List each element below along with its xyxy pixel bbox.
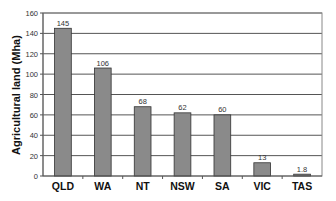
y-tick-label: 120 xyxy=(25,50,38,59)
bar-sa xyxy=(214,115,231,176)
bar-qld xyxy=(55,28,72,176)
x-tick-label: WA xyxy=(94,180,111,192)
y-tick-label: 160 xyxy=(25,9,38,18)
bar-chart: 020406080100120140160 145106686260131.8 … xyxy=(0,0,336,201)
x-axis: QLDWANTNSWSAVICTAS xyxy=(43,176,322,192)
y-tick-label: 100 xyxy=(25,70,38,79)
data-label: 106 xyxy=(97,59,110,68)
y-tick-label: 60 xyxy=(30,111,38,120)
y-tick-label: 0 xyxy=(34,172,38,181)
y-tick-label: 80 xyxy=(30,91,38,100)
bar-nt xyxy=(134,107,151,176)
y-axis-label: Agricultural land (Mha) xyxy=(10,35,22,155)
data-label: 60 xyxy=(218,105,226,114)
bar-vic xyxy=(254,163,271,176)
y-tick-label: 40 xyxy=(30,131,38,140)
x-tick-label: NT xyxy=(136,180,151,192)
y-tick-label: 140 xyxy=(25,29,38,38)
y-tick-label: 20 xyxy=(30,152,38,161)
bar-nsw xyxy=(174,113,191,176)
bar-wa xyxy=(94,68,111,176)
bars: 145106686260131.8 xyxy=(55,19,311,176)
x-tick-label: NSW xyxy=(170,180,195,192)
x-tick-label: TAS xyxy=(292,180,312,192)
data-label: 1.8 xyxy=(297,165,307,174)
x-tick-label: SA xyxy=(215,180,230,192)
data-label: 62 xyxy=(178,103,186,112)
x-tick-label: VIC xyxy=(253,180,271,192)
data-label: 13 xyxy=(258,153,266,162)
x-tick-label: QLD xyxy=(52,180,75,192)
data-label: 145 xyxy=(57,19,70,28)
y-axis: 020406080100120140160 xyxy=(25,9,43,181)
data-label: 68 xyxy=(138,97,146,106)
